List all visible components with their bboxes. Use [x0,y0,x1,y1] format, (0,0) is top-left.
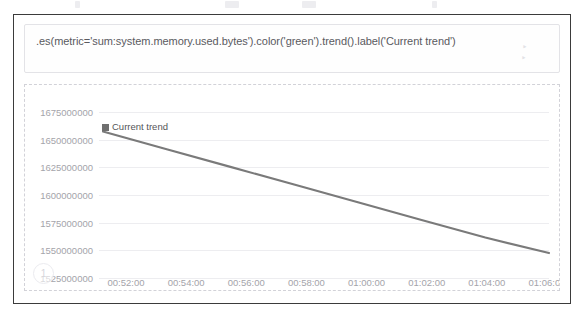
y-axis-ticks: 1675000000165000000016250000001600000000… [40,107,93,284]
gridlines [99,113,549,279]
legend-color-swatch [102,124,109,131]
expression-caret-artifact-upper: ‣ [522,43,527,52]
chart-index-badge[interactable]: 1 [33,263,54,284]
svg-text:1575000000: 1575000000 [40,218,93,229]
chart-svg: 1675000000165000000016250000001600000000… [25,85,559,290]
legend-item-label: Current trend [112,122,168,132]
svg-text:1675000000: 1675000000 [40,107,93,118]
svg-text:1600000000: 1600000000 [40,190,93,201]
svg-text:1625000000: 1625000000 [40,162,93,173]
series-current-trend [103,132,549,254]
expression-input[interactable]: .es(metric='sum:system.memory.used.bytes… [24,24,560,73]
svg-text:1550000000: 1550000000 [40,245,93,256]
expression-caret-artifact-lower: ‣ [521,54,526,63]
screenshot-root: .es(metric='sum:system.memory.used.bytes… [0,0,584,318]
chart-panel[interactable]: 1675000000165000000016250000001600000000… [24,84,560,291]
svg-text:1650000000: 1650000000 [40,135,93,146]
expression-text: .es(metric='sum:system.memory.used.bytes… [36,34,456,48]
chart-legend[interactable]: Current trend [102,122,168,132]
cropped-toolbar-remnant [0,0,584,11]
timelion-panel: .es(metric='sum:system.memory.used.bytes… [13,14,571,304]
